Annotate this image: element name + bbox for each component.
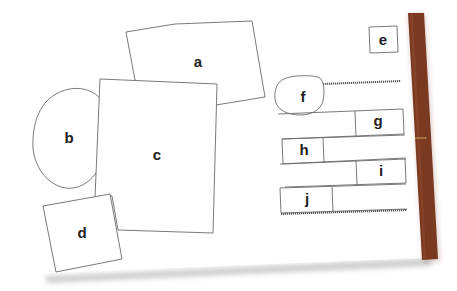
shape-h: h [299,141,308,158]
label-c: c [153,146,161,163]
label-h: h [299,141,308,158]
label-b: b [64,129,73,146]
shape-i: i [379,162,383,179]
label-g: g [373,112,382,129]
shape-g: g [373,112,382,129]
label-e: e [379,31,387,48]
label-a: a [194,53,203,70]
diagram-canvas: a b c d e f g h [0,0,457,291]
shape-j: j [304,190,309,207]
shape-d: d [43,194,122,272]
label-j: j [304,190,309,207]
label-i: i [379,162,383,179]
shape-f: f [275,76,324,115]
shape-e: e [369,26,398,53]
label-d: d [77,224,86,241]
